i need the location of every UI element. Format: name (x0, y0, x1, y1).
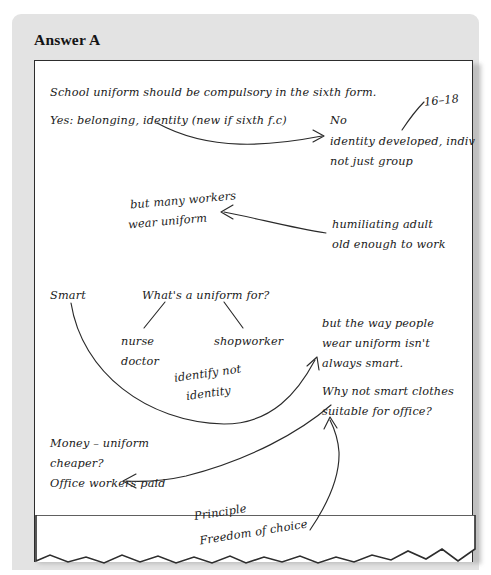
note-age-range: 16–18 (423, 90, 460, 111)
note-humiliating-1: humiliating adult (332, 216, 433, 234)
note-why-not-1: Why not smart clothes (322, 383, 454, 401)
note-question: What's a uniform for? (142, 287, 269, 305)
note-way-people-2: wear uniform isn't (322, 335, 430, 353)
notes-paper: School uniform should be compulsory in t… (34, 60, 477, 575)
note-way-people-3: always smart. (322, 355, 403, 373)
note-thesis: School uniform should be compulsory in t… (50, 84, 377, 102)
answer-panel: Answer A School uniform should be compul… (12, 14, 479, 570)
note-way-people-1: but the way people (322, 315, 434, 333)
note-no-point-2: not just group (330, 153, 413, 171)
note-humiliating-2: old enough to work (332, 236, 446, 254)
note-example-nurse: nurse (121, 333, 154, 351)
note-money-2: cheaper? (50, 455, 104, 473)
note-yes-branch: Yes: belonging, identity (new if sixth f… (50, 112, 287, 130)
page-title: Answer A (34, 31, 100, 49)
note-why-not-2: suitable for office? (322, 403, 432, 421)
note-money-3: Office workers paid (50, 475, 166, 493)
note-no-point-1: identity developed, indiv (330, 133, 475, 151)
note-example-shopworker: shopworker (214, 333, 283, 351)
note-example-doctor: doctor (121, 353, 159, 371)
note-no-label: No (330, 112, 347, 130)
note-smart: Smart (50, 287, 86, 305)
note-money-1: Money – uniform (50, 435, 149, 453)
